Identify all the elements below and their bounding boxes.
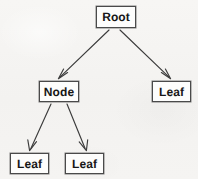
- edge-line: [120, 30, 169, 77]
- edge-root-to-node: [58, 30, 109, 79]
- node-leaf-left-label: Leaf: [17, 157, 42, 169]
- diagram-canvas: Root Node Leaf Leaf Leaf: [0, 0, 198, 179]
- node-leaf-left[interactable]: Leaf: [10, 153, 49, 174]
- node-root[interactable]: Root: [96, 6, 136, 28]
- node-root-label: Root: [102, 11, 130, 23]
- node-leaf-middle[interactable]: Leaf: [65, 153, 104, 174]
- edge-node-to-leaf-left: [28, 104, 51, 151]
- edge-line: [31, 104, 51, 149]
- edge-line: [60, 30, 109, 77]
- node-leaf-right-label: Leaf: [159, 85, 184, 97]
- edge-line: [67, 104, 85, 149]
- node-leaf-right[interactable]: Leaf: [152, 81, 191, 102]
- node-leaf-middle-label: Leaf: [72, 157, 97, 169]
- edge-root-to-leaf-right: [120, 30, 171, 79]
- node-node[interactable]: Node: [39, 81, 79, 102]
- edge-node-to-leaf-middle: [67, 104, 88, 151]
- node-node-label: Node: [44, 85, 74, 97]
